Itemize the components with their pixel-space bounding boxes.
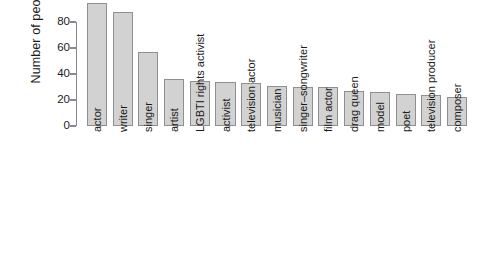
bar-group: television producer [421, 0, 441, 263]
x-axis-label: artist [169, 108, 180, 132]
x-axis-label: film actor [323, 87, 334, 132]
y-tick-mark-0 [70, 125, 76, 126]
plot-area: actorwritersingerartistLGBTI rights acti… [84, 0, 470, 263]
y-axis-line [76, 22, 77, 126]
bar-group: singer–songwriter [293, 0, 313, 263]
x-axis-label: singer–songwriter [297, 45, 308, 132]
y-tick-label-20: 20 [48, 94, 70, 106]
y-tick-mark-40 [70, 73, 76, 74]
y-tick-mark-80 [70, 21, 76, 22]
x-axis-label: poet [400, 111, 411, 132]
x-axis-label: model [374, 102, 385, 132]
x-axis-label: activist [220, 98, 231, 132]
y-tick-mark-60 [70, 47, 76, 48]
x-axis-label: LGBTI rights activist [194, 34, 205, 132]
bar-group: drag queen [344, 0, 364, 263]
x-axis-label: drag queen [349, 76, 360, 132]
bar-group: writer [113, 0, 133, 263]
x-axis-label: television actor [246, 59, 257, 132]
bar-group: actor [87, 0, 107, 263]
bar-group: composer [447, 0, 467, 263]
x-axis-label: television producer [426, 40, 437, 132]
y-tick-label-60: 60 [48, 42, 70, 54]
bar-group: artist [164, 0, 184, 263]
x-axis-label: singer [143, 102, 154, 132]
bar-group: film actor [318, 0, 338, 263]
bar-group: LGBTI rights activist [190, 0, 210, 263]
y-tick-label-0: 0 [48, 120, 70, 132]
bar-group: television actor [241, 0, 261, 263]
x-axis-label: musician [271, 89, 282, 132]
x-axis-label: actor [91, 108, 102, 132]
y-tick-mark-20 [70, 99, 76, 100]
bar-group: poet [396, 0, 416, 263]
y-axis-tick-labels: 020406080 [46, 0, 70, 263]
bar-group: model [370, 0, 390, 263]
x-axis-label: composer [452, 84, 463, 132]
y-tick-label-40: 40 [48, 68, 70, 80]
x-axis-label: writer [117, 105, 128, 132]
bar-chart: Number of people 020406080 actorwritersi… [0, 0, 481, 263]
y-tick-label-80: 80 [48, 16, 70, 28]
bar-group: activist [215, 0, 235, 263]
bar-group: singer [138, 0, 158, 263]
bar-group: musician [267, 0, 287, 263]
